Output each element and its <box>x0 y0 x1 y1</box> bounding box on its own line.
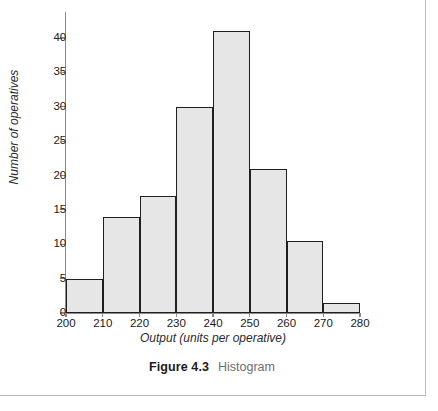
histogram-bar <box>323 303 360 313</box>
x-axis-tick-label: 220 <box>120 317 160 329</box>
figure-4-3: 0510152025303540 20021022023024025026027… <box>0 0 424 394</box>
histogram-bar <box>250 169 287 313</box>
x-axis-tick-label: 210 <box>83 317 123 329</box>
histogram-bar <box>66 279 103 313</box>
x-axis-tick-label: 260 <box>267 317 307 329</box>
x-axis-tick-label: 270 <box>303 317 343 329</box>
y-axis-tick-label: 5 <box>14 272 66 284</box>
histogram-bar <box>176 107 213 313</box>
figure-caption-text: Histogram <box>218 360 275 374</box>
page-rule-bottom <box>0 395 426 396</box>
histogram-bar <box>103 217 140 313</box>
y-axis-tick-label: 40 <box>14 31 66 43</box>
x-axis-tick-label: 250 <box>230 317 270 329</box>
histogram-chart: 0510152025303540 20021022023024025026027… <box>0 0 424 330</box>
y-axis-tick-label: 30 <box>14 100 66 112</box>
y-axis-tick-label: 15 <box>14 203 66 215</box>
y-axis-tick-label: 20 <box>14 169 66 181</box>
x-axis-tick-label: 280 <box>340 317 380 329</box>
histogram-bar <box>140 196 177 313</box>
histogram-bar <box>213 31 250 313</box>
figure-caption: Figure 4.3Histogram <box>0 360 424 374</box>
x-axis-title: Output (units per operative) <box>66 331 360 345</box>
y-axis-tick-label: 10 <box>14 237 66 249</box>
page-rule-right <box>425 0 426 396</box>
figure-caption-number: Figure 4.3 <box>149 360 209 374</box>
y-axis-tick-label: 35 <box>14 65 66 77</box>
x-axis-tick-label: 230 <box>156 317 196 329</box>
y-axis-title: Number of operatives <box>7 47 21 207</box>
y-axis-tick-label: 25 <box>14 134 66 146</box>
x-axis-tick-label: 200 <box>46 317 86 329</box>
histogram-bar <box>287 241 324 313</box>
x-axis-tick-label: 240 <box>193 317 233 329</box>
